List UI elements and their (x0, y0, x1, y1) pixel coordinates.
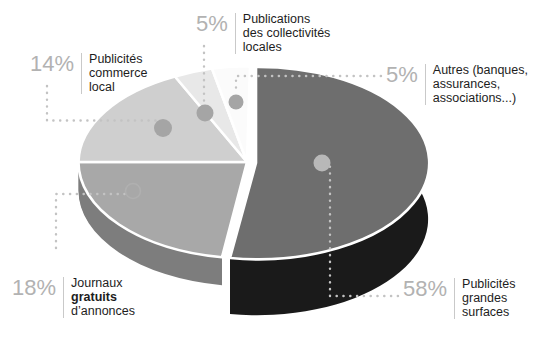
label-grandes-surfaces: Publicités grandes surfaces (462, 277, 516, 320)
label-line-3: d’annonces (71, 304, 135, 318)
label-collectivites: Publications des collectivités locales (243, 12, 331, 55)
label-autres: Autres (banques, assurances, association… (433, 63, 528, 106)
label-line-1: Publications (243, 12, 331, 26)
marker-autres (229, 95, 244, 110)
label-line-2: grandes (462, 291, 516, 305)
label-commerce-local: Publicités commerce local (89, 52, 147, 95)
percent-collectivites: 5% (196, 12, 228, 35)
pie-top-faces (78, 66, 429, 259)
callout-divider (81, 53, 82, 94)
marker-collectivites (197, 105, 214, 122)
label-journaux: Journaux gratuits d’annonces (71, 276, 135, 319)
label-line-1: Autres (banques, (433, 63, 528, 77)
callout-divider (235, 13, 236, 54)
callout-divider (425, 64, 426, 105)
callout-autres: 5% Autres (banques, assurances, associat… (386, 63, 528, 106)
label-line-2-bold: gratuits (71, 290, 117, 304)
callout-divider (454, 278, 455, 319)
percent-journaux: 18% (12, 276, 56, 299)
label-line-2: gratuits (71, 290, 135, 304)
marker-grandes-surfaces (314, 155, 331, 172)
label-line-1: Journaux (71, 276, 135, 290)
callout-grandes-surfaces: 58% Publicités grandes surfaces (403, 277, 516, 320)
label-line-2: assurances, (433, 77, 528, 91)
marker-commerce-local (154, 119, 172, 137)
label-line-1: Publicités (89, 52, 147, 66)
callout-divider (63, 277, 64, 318)
label-line-3: associations...) (433, 91, 528, 105)
label-line-3: surfaces (462, 305, 516, 319)
label-line-1: Publicités (462, 277, 516, 291)
percent-commerce-local: 14% (30, 52, 74, 75)
label-line-3: local (89, 80, 147, 94)
label-line-2: commerce (89, 66, 147, 80)
callout-commerce-local: 14% Publicités commerce local (30, 52, 147, 95)
percent-grandes-surfaces: 58% (403, 277, 447, 300)
percent-autres: 5% (386, 63, 418, 86)
callout-journaux-gratuits: 18% Journaux gratuits d’annonces (12, 276, 135, 319)
label-line-3: locales (243, 40, 331, 54)
slice-journaux (78, 162, 247, 257)
label-line-2: des collectivités (243, 26, 331, 40)
callout-collectivites-locales: 5% Publications des collectivités locale… (196, 12, 330, 55)
